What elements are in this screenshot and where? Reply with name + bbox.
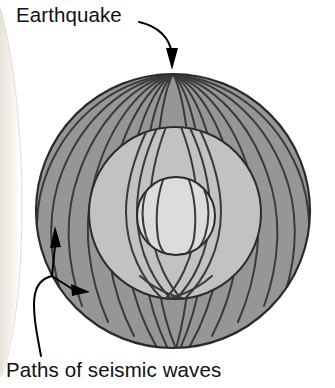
- earth-body: [36, 74, 310, 349]
- earthquake-label: Earthquake: [16, 3, 122, 27]
- paths-of-seismic-waves-label: Paths of seismic waves: [6, 358, 221, 382]
- seismic-wave-diagram: Earthquake Paths of seismic waves: [0, 0, 335, 388]
- earthquake-pointer-arrow: [139, 22, 178, 70]
- scan-shadow-artifact: [0, 6, 22, 378]
- earth-cross-section-svg: [0, 0, 335, 388]
